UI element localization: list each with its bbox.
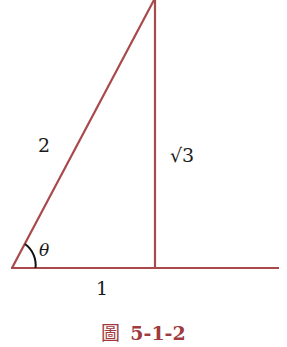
caption-prefix: 圖	[101, 322, 120, 344]
figure-caption: 圖5-1-2	[0, 318, 287, 345]
angle-theta-label: θ	[39, 242, 49, 259]
adjacent-side-label: 1	[96, 279, 108, 298]
angle-arc	[25, 244, 36, 268]
caption-number: 5-1-2	[130, 322, 185, 344]
triangle-diagram	[0, 0, 287, 347]
opposite-side-label: √3	[170, 146, 194, 165]
hypotenuse-label: 2	[38, 136, 50, 155]
hypotenuse-line	[12, 0, 154, 268]
